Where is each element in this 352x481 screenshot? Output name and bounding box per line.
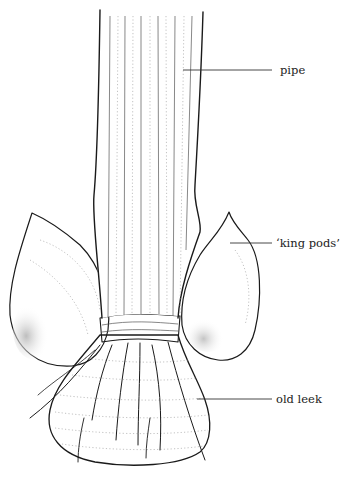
leek-diagram: pipe ‘king pods’ old leek <box>0 0 352 481</box>
label-pipe: pipe <box>280 63 305 77</box>
pipe-stem <box>92 10 203 318</box>
leek-collar <box>100 314 180 342</box>
label-old-leek: old leek <box>276 392 323 406</box>
old-leek-bulb <box>30 335 210 465</box>
label-king-pods: ‘king pods’ <box>276 236 340 250</box>
